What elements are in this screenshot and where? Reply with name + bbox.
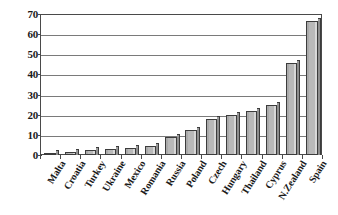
- bar-side-face: [277, 105, 280, 155]
- bar-czech: [206, 14, 217, 155]
- bar-n-zealand: [286, 14, 297, 155]
- bar-side-face: [297, 63, 300, 155]
- bar-side-face: [156, 146, 159, 155]
- bar-top-face: [116, 146, 119, 149]
- x-axis-labels: MaltaCroatiaTurkeyUkraineMexicoRomaniaRu…: [40, 159, 322, 215]
- bar-spain: [306, 14, 317, 155]
- bar-side-face: [177, 137, 180, 155]
- bar-top-face: [136, 145, 139, 148]
- y-axis-tick-label: 40: [2, 69, 38, 80]
- y-axis-tick-label: 0: [2, 150, 38, 161]
- bar-body: [165, 137, 176, 155]
- bar-side-face: [136, 148, 139, 155]
- y-axis-tick-label: 30: [2, 89, 38, 100]
- bar-malta: [44, 14, 55, 155]
- x-axis-tick-mark: [322, 155, 323, 159]
- bar-body: [246, 111, 257, 155]
- bar-top-face: [237, 112, 240, 115]
- bar-top-face: [156, 143, 159, 146]
- bar-body: [125, 148, 136, 155]
- x-axis-category-label: Spain: [308, 159, 329, 185]
- bar-top-face: [177, 134, 180, 137]
- bar-body: [286, 63, 297, 155]
- bar-russia: [165, 14, 176, 155]
- bar-side-face: [197, 130, 200, 155]
- y-axis: 010203040506070: [0, 14, 38, 155]
- bar-top-face: [318, 18, 321, 21]
- bar-body: [266, 105, 277, 155]
- bar-top-face: [96, 147, 99, 150]
- bar-body: [226, 115, 237, 155]
- bar-ukraine: [105, 14, 116, 155]
- y-axis-tick-label: 20: [2, 109, 38, 120]
- bar-top-face: [297, 60, 300, 63]
- bar-turkey: [85, 14, 96, 155]
- bar-top-face: [76, 149, 79, 152]
- bar-mexico: [125, 14, 136, 155]
- y-axis-tick-label: 50: [2, 49, 38, 60]
- bar-side-face: [257, 111, 260, 155]
- bar-body: [306, 21, 317, 155]
- bar-top-face: [56, 150, 59, 153]
- y-axis-tick-label: 10: [2, 129, 38, 140]
- bar-body: [185, 130, 196, 155]
- bar-side-face: [217, 119, 220, 155]
- bar-croatia: [65, 14, 76, 155]
- bar-body: [145, 146, 156, 155]
- bar-poland: [185, 14, 196, 155]
- bar-side-face: [318, 21, 321, 155]
- bar-romania: [145, 14, 156, 155]
- bar-top-face: [257, 108, 260, 111]
- y-axis-tick-label: 60: [2, 29, 38, 40]
- bar-top-face: [217, 116, 220, 119]
- bars-layer: [40, 14, 322, 155]
- bar-hungary: [226, 14, 237, 155]
- bar-side-face: [237, 115, 240, 155]
- bar-chart: 010203040506070 MaltaCroatiaTurkeyUkrain…: [0, 0, 338, 215]
- bar-top-face: [277, 102, 280, 105]
- bar-thailand: [246, 14, 257, 155]
- y-axis-tick-label: 70: [2, 9, 38, 20]
- bar-body: [206, 119, 217, 155]
- bar-cyprus: [266, 14, 277, 155]
- bar-top-face: [197, 127, 200, 130]
